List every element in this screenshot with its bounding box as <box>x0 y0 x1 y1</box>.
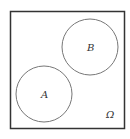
venn-diagram: B A Ω <box>0 0 130 139</box>
set-a-label: A <box>40 89 48 100</box>
set-b-label: B <box>86 42 94 53</box>
universe-label: Ω <box>105 109 114 120</box>
